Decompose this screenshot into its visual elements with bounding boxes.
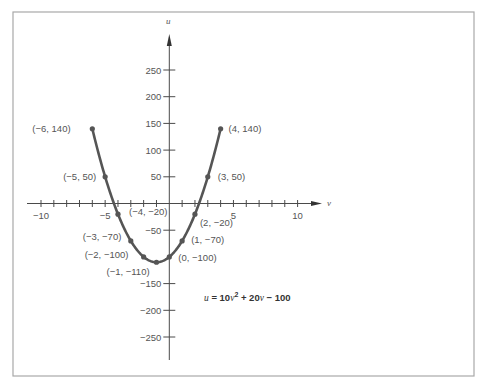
data-point-label: (−4, −20)	[129, 206, 168, 217]
data-point-label: (3, 50)	[218, 171, 245, 182]
data-point-label: (0, −100)	[178, 252, 216, 263]
data-point	[154, 260, 159, 265]
y-tick-label: 100	[145, 145, 161, 156]
data-point	[90, 126, 95, 131]
equation-coef1: = 10	[209, 292, 230, 303]
data-point	[103, 174, 108, 179]
data-point-label: (1, −70)	[191, 234, 224, 245]
data-point-label: (−5, 50)	[63, 171, 96, 182]
equation-label: u = 10v2 + 20v − 100	[204, 291, 291, 303]
equation-constant: − 100	[264, 292, 291, 303]
data-point	[115, 212, 120, 217]
y-tick-label: −150	[140, 278, 161, 289]
y-axis-arrow-icon	[167, 34, 172, 46]
data-point-label: (−1, −110)	[106, 266, 149, 277]
data-point	[141, 254, 146, 259]
data-point-label: (2, −20)	[200, 217, 233, 228]
data-point	[205, 174, 210, 179]
data-point	[167, 254, 172, 259]
axes	[27, 34, 322, 360]
data-point-label: (4, 140)	[229, 123, 262, 134]
data-point-label: (−6, 140)	[32, 123, 70, 134]
data-point	[192, 212, 197, 217]
equation-coef2: + 20	[238, 292, 259, 303]
y-tick-label: −50	[145, 225, 161, 236]
figure-frame	[13, 12, 474, 376]
parabola-chart: −10−551025020015010050−50−150−200−250 (−…	[0, 0, 484, 382]
x-tick-label: −5	[100, 210, 111, 221]
x-axis-arrow-icon	[311, 201, 322, 206]
x-tick-label: −10	[33, 210, 49, 221]
y-tick-label: −250	[140, 332, 161, 343]
x-tick-label: 10	[292, 210, 303, 221]
data-point-label: (−2, −100)	[85, 249, 129, 260]
data-point	[180, 238, 185, 243]
y-tick-label: 50	[151, 171, 162, 182]
y-tick-label: −200	[140, 305, 161, 316]
y-tick-label: 200	[145, 91, 161, 102]
data-point	[128, 238, 133, 243]
data-point-label: (−3, −70)	[83, 231, 122, 242]
x-axis-name: v	[327, 198, 331, 208]
y-tick-label: 150	[145, 118, 161, 129]
data-point	[218, 126, 223, 131]
y-axis-name: u	[166, 16, 171, 26]
y-tick-label: 250	[145, 65, 161, 76]
